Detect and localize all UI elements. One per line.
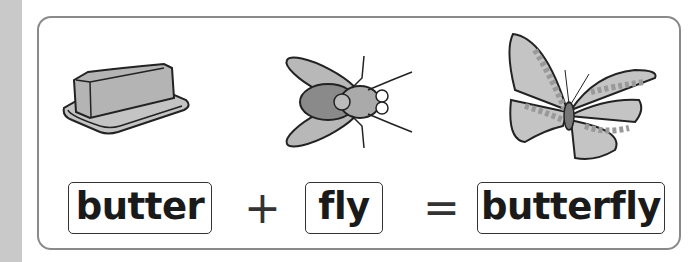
equals-sign: = [423,184,460,232]
butterfly-icon [505,30,665,165]
left-margin-strip [0,0,22,262]
housefly-icon [282,52,417,152]
word-fly: fly [318,185,369,228]
word-butterfly: butterfly [481,185,661,228]
word-box-fly: fly [305,182,383,234]
word-box-butter: butter [68,182,212,234]
word-butter: butter [76,185,205,228]
butter-dish-icon [60,60,192,135]
word-box-butterfly: butterfly [477,182,665,234]
plus-sign: + [244,184,281,232]
